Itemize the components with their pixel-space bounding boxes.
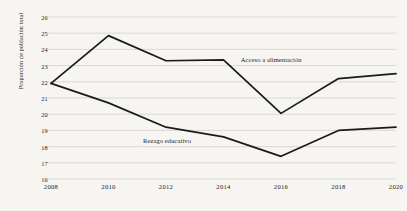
series-line xyxy=(51,83,396,156)
x-axis-tick: 2020 xyxy=(374,183,407,190)
x-axis-tick: 2016 xyxy=(259,183,303,190)
x-axis-tick: 2012 xyxy=(144,183,188,190)
data-series-lines xyxy=(51,36,396,157)
gridlines xyxy=(48,17,396,179)
chart-plot-area xyxy=(0,0,407,211)
x-axis-tick: 2010 xyxy=(87,183,131,190)
x-axis-tick-labels: 2008201020122014201620182020 xyxy=(0,183,407,197)
x-axis-tick: 2018 xyxy=(317,183,361,190)
chart-figure: Proporción de población total 2625242322… xyxy=(0,0,407,211)
series-label: Acceso a alimentación xyxy=(241,56,302,63)
x-axis-tick: 2008 xyxy=(29,183,73,190)
x-axis-tick: 2014 xyxy=(202,183,246,190)
series-label: Rezago educativo xyxy=(143,137,191,144)
